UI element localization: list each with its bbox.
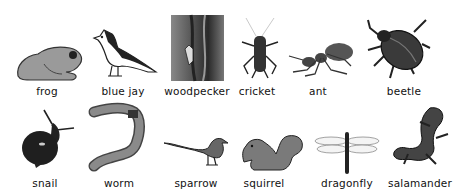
animal-label-woodpecker: woodpecker bbox=[164, 85, 229, 97]
ant-icon bbox=[287, 42, 355, 78]
dragonfly-icon bbox=[314, 132, 380, 174]
cricket-icon bbox=[240, 16, 280, 78]
woodpecker-photo bbox=[171, 15, 224, 81]
animal-label-frog: frog bbox=[36, 85, 58, 97]
animal-label-squirrel: squirrel bbox=[244, 177, 285, 189]
animal-label-blue-jay: blue jay bbox=[101, 85, 144, 97]
animal-label-sparrow: sparrow bbox=[174, 177, 217, 189]
beetle-icon bbox=[364, 16, 430, 80]
animal-label-worm: worm bbox=[104, 177, 134, 189]
snail-icon bbox=[16, 106, 76, 168]
squirrel-icon bbox=[240, 132, 306, 172]
sparrow-icon bbox=[164, 135, 230, 167]
animal-label-ant: ant bbox=[309, 85, 327, 97]
salamander-icon bbox=[390, 104, 454, 170]
frog-icon bbox=[14, 40, 84, 82]
animal-label-beetle: beetle bbox=[387, 85, 421, 97]
blue-jay-icon bbox=[90, 28, 158, 80]
animal-label-salamander: salamander bbox=[388, 177, 452, 189]
animal-label-cricket: cricket bbox=[239, 85, 275, 97]
animal-label-dragonfly: dragonfly bbox=[321, 177, 373, 189]
animal-label-snail: snail bbox=[32, 177, 57, 189]
worm-icon bbox=[88, 104, 152, 168]
